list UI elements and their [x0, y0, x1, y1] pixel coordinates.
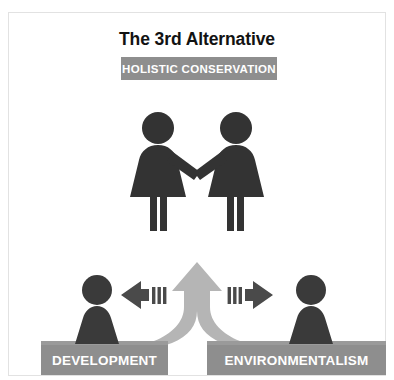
top-left-person-icon — [130, 112, 200, 231]
right-arrow-icon — [228, 281, 273, 309]
merging-upward-arrow-icon — [147, 262, 247, 345]
environmentalism-label: ENVIRONMENTALISM — [225, 353, 369, 368]
left-arrow-icon — [121, 281, 166, 309]
bottom-right-person-icon — [289, 275, 333, 344]
development-label: DEVELOPMENT — [52, 353, 157, 368]
environmentalism-label-box: ENVIRONMENTALISM — [207, 345, 386, 375]
top-right-person-icon — [194, 112, 264, 231]
diagram-artwork — [0, 0, 394, 380]
bottom-left-person-icon — [75, 275, 119, 344]
slide-canvas: The 3rd Alternative HOLISTIC CONSERVATIO… — [0, 0, 394, 380]
development-label-box: DEVELOPMENT — [41, 345, 168, 375]
